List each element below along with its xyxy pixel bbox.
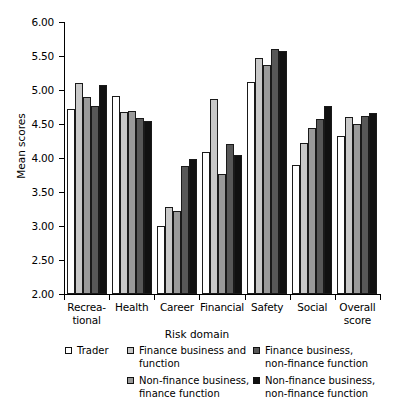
- bar: [210, 99, 218, 294]
- y-axis-tick-label: 2.00: [14, 289, 54, 299]
- bar-group: [157, 22, 197, 294]
- x-axis-title: Risk domain: [0, 328, 394, 340]
- legend-label: Finance business and function: [139, 345, 262, 370]
- y-axis-tick-label: 5.50: [14, 51, 54, 61]
- bar: [255, 58, 263, 294]
- x-axis-tick: [64, 295, 65, 300]
- bar-group: [67, 22, 107, 294]
- bar: [337, 136, 345, 294]
- bar: [67, 109, 75, 294]
- x-axis-tick: [380, 295, 381, 300]
- legend-swatch-icon: [253, 347, 260, 354]
- bar: [165, 207, 173, 294]
- legend-item: Trader: [65, 345, 125, 358]
- legend-swatch-icon: [65, 347, 72, 354]
- x-axis-tick: [154, 295, 155, 300]
- legend-item: Finance business and function: [127, 345, 262, 370]
- y-axis-tick-label: 4.00: [14, 153, 54, 163]
- y-axis-tick-label: 3.00: [14, 221, 54, 231]
- bar-group: [292, 22, 332, 294]
- bar-group: [202, 22, 242, 294]
- x-axis-tick: [109, 295, 110, 300]
- bar-chart: Mean scores 6.005.505.004.504.003.503.00…: [0, 0, 394, 411]
- bar: [157, 226, 165, 294]
- bar: [292, 165, 300, 294]
- bar: [144, 121, 152, 294]
- bar: [128, 111, 136, 294]
- bar: [91, 106, 99, 294]
- bar: [120, 112, 128, 294]
- legend-swatch-icon: [253, 377, 260, 384]
- bar: [226, 144, 234, 294]
- legend-swatch-icon: [127, 347, 134, 354]
- plot-area: [64, 22, 380, 294]
- bar: [361, 116, 369, 294]
- legend-swatch-icon: [127, 377, 134, 384]
- bar-group: [112, 22, 152, 294]
- legend-item: Non-finance business, non-finance functi…: [253, 375, 393, 400]
- y-axis-tick-label: 6.00: [14, 17, 54, 27]
- legend-item: Finance business, non-finance function: [253, 345, 393, 370]
- bar: [308, 128, 316, 294]
- y-axis-tick-label: 5.00: [14, 85, 54, 95]
- bar-group: [247, 22, 287, 294]
- bar: [369, 113, 377, 294]
- y-axis-tick-label: 3.50: [14, 187, 54, 197]
- x-axis-tick-label: Overall score: [320, 301, 394, 326]
- bar: [136, 118, 144, 294]
- legend-column-2: Finance business and functionNon-finance…: [127, 345, 262, 405]
- legend-label: Non-finance business, finance function: [139, 375, 262, 400]
- legend-item: Non-finance business, finance function: [127, 375, 262, 400]
- bar: [181, 166, 189, 294]
- bar: [83, 97, 91, 294]
- legend-label: Trader: [77, 345, 125, 358]
- bar: [189, 159, 197, 294]
- bar: [173, 211, 181, 294]
- bar: [345, 117, 353, 294]
- bar: [353, 124, 361, 294]
- x-axis-tick: [335, 295, 336, 300]
- y-axis-tick-label: 2.50: [14, 255, 54, 265]
- legend-column-3: Finance business, non-finance functionNo…: [253, 345, 393, 405]
- bar: [324, 106, 332, 294]
- x-axis-tick: [199, 295, 200, 300]
- legend: Trader Finance business and functionNon-…: [0, 345, 394, 407]
- bar: [218, 174, 226, 294]
- legend-label: Non-finance business, non-finance functi…: [265, 375, 393, 400]
- bar: [202, 152, 210, 294]
- bar: [263, 65, 271, 294]
- bar: [75, 83, 83, 294]
- bar: [234, 155, 242, 294]
- x-axis-line: [64, 294, 381, 295]
- x-axis-tick: [290, 295, 291, 300]
- legend-column-1: Trader: [65, 345, 125, 363]
- bar: [279, 51, 287, 294]
- bar: [271, 49, 279, 294]
- bar: [300, 143, 308, 294]
- bar: [316, 119, 324, 294]
- x-axis-tick: [245, 295, 246, 300]
- bar: [247, 82, 255, 294]
- legend-label: Finance business, non-finance function: [265, 345, 393, 370]
- y-axis-tick-label: 4.50: [14, 119, 54, 129]
- bar-group: [337, 22, 377, 294]
- bar: [112, 96, 120, 294]
- bar: [99, 85, 107, 294]
